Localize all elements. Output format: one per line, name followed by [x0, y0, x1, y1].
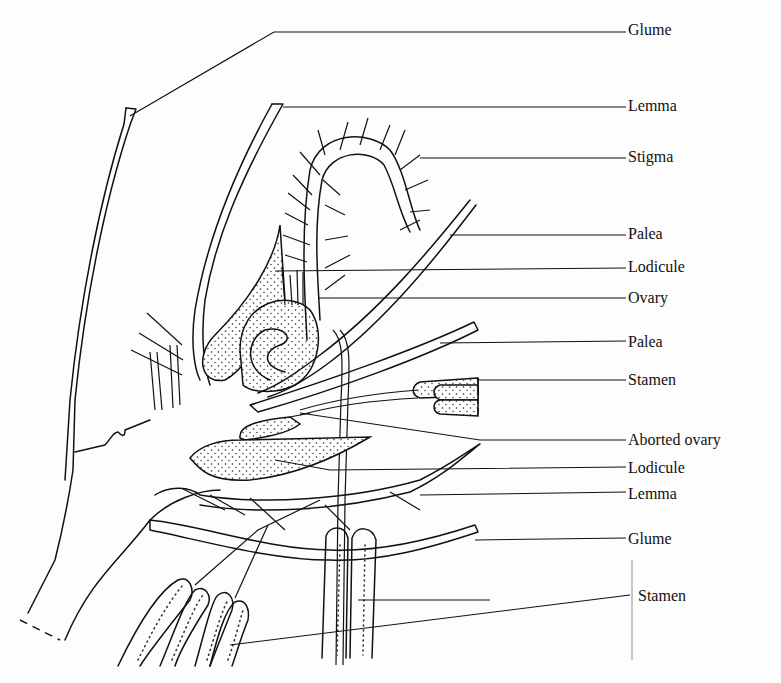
label-aborted-ovary: Aborted ovary — [628, 432, 721, 448]
label-stamen-lower: Stamen — [638, 588, 686, 604]
upper-stamen-shape — [300, 378, 478, 418]
label-palea-top: Palea — [628, 226, 663, 242]
label-lodicule-top: Lodicule — [628, 259, 685, 275]
basal-hairs — [131, 313, 183, 410]
leader-lines — [130, 32, 632, 660]
label-lemma-lower: Lemma — [628, 486, 677, 502]
lower-glume-shape — [150, 520, 478, 560]
ovary-hairs — [282, 268, 303, 305]
label-glume-top: Glume — [628, 22, 672, 38]
label-ovary: Ovary — [628, 290, 668, 306]
aborted-ovary-shape — [240, 413, 310, 440]
vertical-stamens — [322, 528, 376, 658]
stigma-shape — [283, 118, 430, 340]
label-glume-lower: Glume — [628, 531, 672, 547]
diagonal-stamens — [118, 500, 320, 666]
label-stamen-upper: Stamen — [628, 372, 676, 388]
floret-diagram: Glume Lemma Stigma Palea Lodicule Ovary … — [0, 0, 781, 683]
label-lodicule-lower: Lodicule — [628, 460, 685, 476]
label-palea-lower: Palea — [628, 334, 663, 350]
label-lemma-top: Lemma — [628, 98, 677, 114]
outer-glume-shape — [20, 108, 220, 640]
label-stigma: Stigma — [628, 149, 673, 165]
lower-lodicule-shape — [190, 437, 370, 480]
